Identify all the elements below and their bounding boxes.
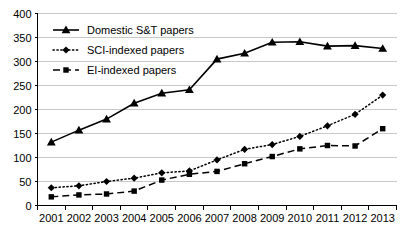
y-axis-tick-label: 350: [13, 32, 31, 44]
x-axis-tick-label: 2001: [39, 212, 63, 224]
data-point-marker: [241, 146, 248, 153]
data-point-marker: [158, 169, 165, 176]
y-axis-tick-label: 100: [13, 152, 31, 164]
data-point-marker: [62, 46, 69, 53]
y-axis-labels-group: 050100150200250300350400: [13, 8, 31, 212]
data-point-marker: [103, 178, 110, 185]
x-axis-tick-label: 2003: [94, 212, 118, 224]
data-point-marker: [63, 67, 68, 72]
data-point-marker: [242, 161, 247, 166]
y-axis-tick-label: 50: [19, 176, 31, 188]
legend-label: SCI-indexed papers: [87, 44, 185, 56]
data-point-marker: [187, 172, 192, 177]
x-axis-tick-label: 2011: [316, 212, 340, 224]
y-axis-tick-label: 400: [13, 8, 31, 20]
data-point-marker: [351, 111, 358, 118]
data-point-marker: [380, 126, 385, 131]
y-axis-tick-label: 150: [13, 128, 31, 140]
x-axis-tick-label: 2009: [260, 212, 284, 224]
data-point-marker: [76, 192, 81, 197]
data-point-marker: [75, 182, 82, 189]
data-point-marker: [48, 184, 55, 191]
data-point-marker: [102, 115, 111, 123]
data-point-marker: [352, 143, 357, 148]
data-point-marker: [104, 191, 109, 196]
data-point-marker: [214, 169, 219, 174]
data-point-marker: [131, 188, 136, 193]
y-axis-tick-label: 300: [13, 56, 31, 68]
data-point-marker: [159, 177, 164, 182]
chart-container: 050100150200250300350400 200120022003200…: [0, 0, 410, 234]
legend-label: Domestic S&T papers: [87, 24, 194, 36]
chart-legend: Domestic S&T papersSCI-indexed papersEI-…: [53, 24, 194, 76]
x-axis-tick-label: 2006: [177, 212, 201, 224]
line-chart: 050100150200250300350400 200120022003200…: [0, 0, 410, 234]
data-point-marker: [131, 175, 138, 182]
y-axis-tick-label: 0: [25, 200, 31, 212]
x-axis-tick-label: 2002: [67, 212, 91, 224]
data-point-marker: [324, 122, 331, 129]
y-axis-tick-label: 250: [13, 80, 31, 92]
data-point-marker: [270, 154, 275, 159]
x-axis-tick-label: 2004: [122, 212, 146, 224]
data-point-marker: [379, 92, 386, 99]
x-axis-tick-label: 2012: [343, 212, 367, 224]
x-axis-ticks-group: [38, 206, 397, 210]
x-axis-labels-group: 2001200220032004200520062007200820092010…: [39, 212, 395, 224]
x-axis-tick-label: 2008: [232, 212, 256, 224]
data-point-marker: [269, 141, 276, 148]
x-axis-tick-label: 2010: [288, 212, 312, 224]
x-axis-tick-label: 2005: [150, 212, 174, 224]
data-point-marker: [297, 146, 302, 151]
x-axis-tick-label: 2013: [370, 212, 394, 224]
y-axis-tick-label: 200: [13, 104, 31, 116]
data-point-marker: [49, 194, 54, 199]
data-point-marker: [325, 143, 330, 148]
legend-label: EI-indexed papers: [87, 64, 177, 76]
x-axis-tick-label: 2007: [205, 212, 229, 224]
